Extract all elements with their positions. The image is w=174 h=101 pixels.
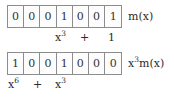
bit-cell: 0 [89,53,105,74]
bit-array-row-m-of-x: 0 0 0 1 0 0 1 [7,5,122,28]
bit-cell: 0 [40,6,56,27]
bit-cell: 1 [57,53,73,74]
bit-cell: 1 [57,6,73,27]
term-exponent: 6 [14,76,19,85]
polynomial-operator: + [33,79,42,90]
bit-cell: 0 [73,53,89,74]
bit-cell: 0 [105,53,121,74]
bit-cell: 0 [8,6,24,27]
polynomial-operator: + [80,32,89,43]
term-base: + [33,78,42,91]
polynomial-term: 1 [108,32,115,43]
polynomial-term: x3 [55,79,66,90]
bit-cell: 0 [24,6,40,27]
row-label-text: m(x) [139,57,164,70]
term-exponent: 3 [61,29,66,38]
row-label-m-of-x: m(x) [128,11,153,22]
row-label-text: m(x) [128,10,153,23]
bit-cell: 0 [73,6,89,27]
polynomial-term: x6 [8,79,19,90]
bit-cell: 1 [105,6,121,27]
bit-cell: 0 [40,53,56,74]
bit-array-polynomial-diagram: 0 0 0 1 0 0 1 m(x) x3 + 1 1 0 0 1 0 0 0 … [0,0,174,101]
bit-array-row-x3-m-of-x: 1 0 0 1 0 0 0 [7,52,122,75]
term-base: 1 [108,31,115,44]
polynomial-row-x3-m-of-x: x6 + x3 [0,79,174,91]
term-exponent: 3 [61,76,66,85]
bit-cell: 1 [8,53,24,74]
bit-cell: 0 [89,6,105,27]
term-base: + [80,31,89,44]
polynomial-term: x3 [55,32,66,43]
polynomial-row-m-of-x: x3 + 1 [0,32,174,44]
bit-cell: 0 [24,53,40,74]
row-label-x3-m-of-x: x3m(x) [128,58,164,69]
